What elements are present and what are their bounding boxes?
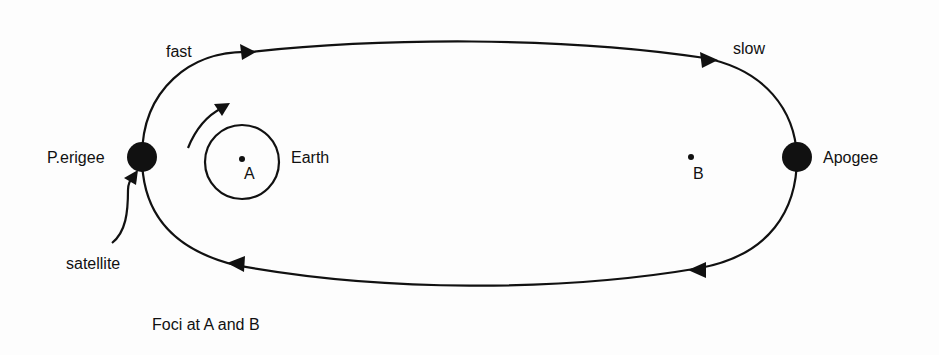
orbit-diagram: fast slow P.erigee Apogee Earth A B sate… (0, 0, 939, 355)
label-apogee: Apogee (823, 150, 878, 166)
arrow-fast-icon (240, 44, 256, 60)
satellite-pointer-arrow-icon (112, 177, 133, 243)
caption: Foci at A and B (152, 317, 260, 333)
label-focus-b: B (693, 166, 704, 182)
label-slow: slow (733, 41, 765, 57)
arrow-bottom-right-icon (688, 262, 706, 278)
label-focus-a: A (244, 166, 255, 182)
label-earth: Earth (291, 150, 329, 166)
apogee-icon (782, 142, 812, 172)
orbit-path (142, 41, 797, 285)
focus-b-dot (688, 154, 694, 160)
arrow-bottom-left-icon (227, 256, 245, 272)
rotation-arrow-icon (188, 108, 222, 148)
arrow-slow-icon (700, 52, 718, 68)
focus-a-dot (239, 156, 245, 162)
label-fast: fast (166, 44, 192, 60)
perigee-satellite-icon (127, 142, 157, 172)
label-satellite: satellite (66, 256, 120, 272)
label-perigee: P.erigee (47, 150, 105, 166)
orbit-drawing (0, 0, 939, 355)
